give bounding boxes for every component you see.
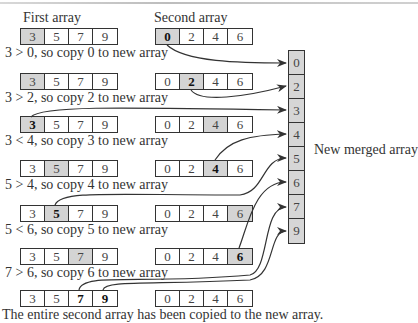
arrow-copy-0 — [167, 45, 286, 63]
arrow-copy-2 — [191, 86, 286, 97]
arrow-copy-6 — [239, 182, 286, 248]
arrow-copy-5 — [55, 158, 286, 205]
arrow-copy-7 — [79, 207, 286, 290]
arrow-copy-3 — [31, 108, 286, 117]
arrow-copy-9 — [103, 231, 286, 290]
arrow-copy-4 — [215, 134, 286, 160]
